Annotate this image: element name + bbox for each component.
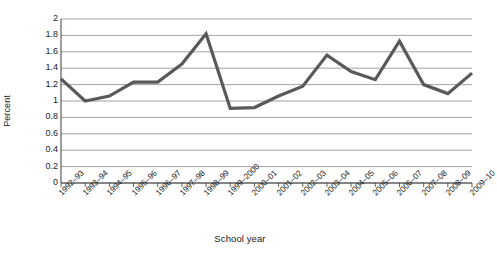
- x-axis-title: School year: [0, 233, 480, 244]
- data-series-line: [61, 34, 472, 109]
